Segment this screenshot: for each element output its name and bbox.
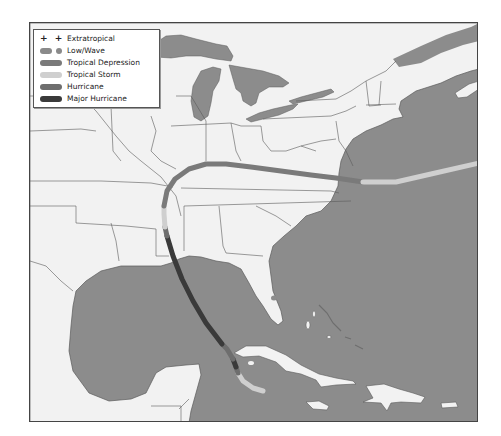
legend-label: Major Hurricane [67,93,127,105]
legend-label: Tropical Depression [67,57,140,69]
legend-item-low-wave: Low/Wave [34,45,159,57]
plus-marker-icon: + + [40,32,64,44]
legend-item-extratropical: + + Extratropical [34,33,159,45]
tropical-depression-swatch-icon [40,60,62,66]
legend-item-hurricane: Hurricane [34,81,159,93]
legend-label: Extratropical [67,33,115,45]
legend-label: Low/Wave [67,45,105,57]
legend-item-tropical-depression: Tropical Depression [34,57,159,69]
major-hurricane-swatch-icon [40,96,62,102]
land-puerto-rico [441,402,458,408]
low-wave-dot-icon [56,48,62,54]
legend-item-major-hurricane: Major Hurricane [34,93,159,105]
legend-label: Hurricane [67,81,104,93]
low-wave-swatch-icon [40,48,52,54]
tropical-storm-swatch-icon [40,72,62,78]
legend: + + Extratropical Low/Wave Tropical Depr… [33,29,160,108]
track-segment-tropical-storm [164,206,165,227]
hurricane-swatch-icon [40,84,62,90]
legend-item-tropical-storm: Tropical Storm [34,69,159,81]
lake-okeechobee [271,296,277,301]
legend-label: Tropical Storm [67,69,121,81]
land-isle-of-youth [248,361,254,365]
